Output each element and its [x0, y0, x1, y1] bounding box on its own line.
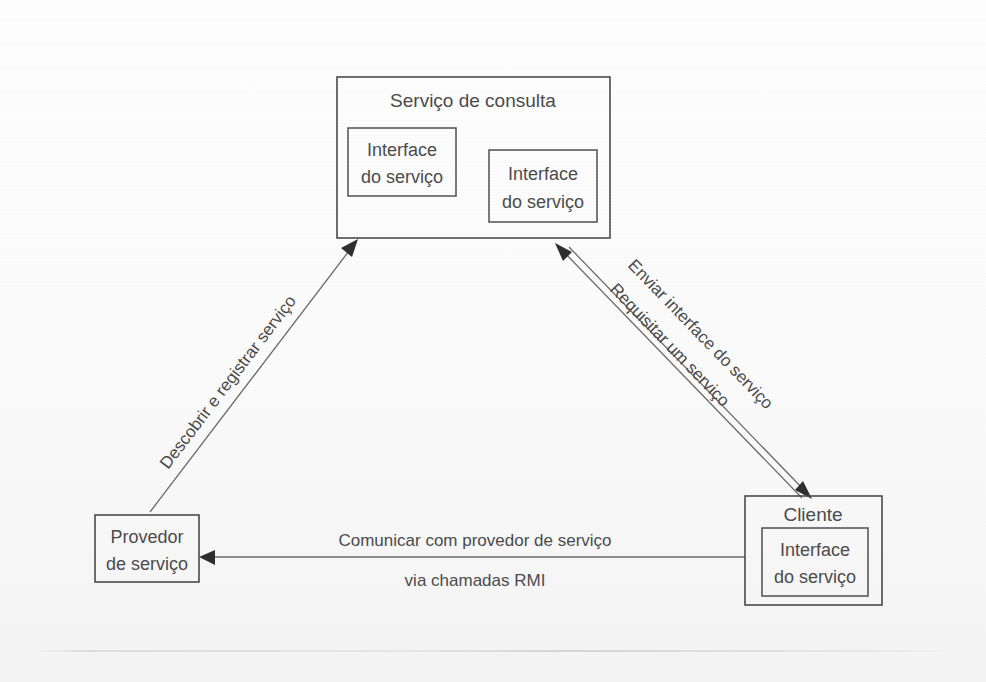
service-architecture-diagram: Descobrir e registrar serviço Enviar int… [0, 0, 986, 682]
registry-interface-2-line1: Interface [508, 164, 578, 184]
registry-interface-1-line1: Interface [367, 140, 437, 160]
edge-discover-register: Descobrir e registrar serviço [150, 239, 358, 512]
client-interface-line1: Interface [780, 540, 850, 560]
node-client[interactable]: Cliente Interface do serviço [745, 496, 882, 605]
client-title: Cliente [783, 504, 842, 525]
registry-interface-2-line2: do serviço [502, 192, 584, 212]
registry-interface-1[interactable]: Interface do serviço [348, 128, 456, 196]
discover-register-line [150, 247, 352, 512]
provider-label-line1: Provedor [110, 527, 183, 547]
registry-interface-1-line2: do serviço [361, 167, 443, 187]
registry-interface-2[interactable]: Interface do serviço [489, 150, 597, 222]
client-interface-line2: do serviço [774, 567, 856, 587]
node-registry[interactable]: Serviço de consulta Interface do serviço… [337, 77, 610, 238]
request-service-line [562, 250, 802, 498]
communicate-arrowhead [199, 550, 215, 565]
edge-communicate: Comunicar com provedor de serviço via ch… [199, 531, 745, 590]
edge-label-discover-register: Descobrir e registrar serviço [156, 292, 300, 473]
edge-request-service: Requisitar um serviço [555, 243, 802, 498]
client-interface[interactable]: Interface do serviço [762, 528, 868, 596]
node-provider[interactable]: Provedor de serviço [95, 515, 199, 582]
diagram-page: Descobrir e registrar serviço Enviar int… [0, 0, 986, 682]
provider-label-line2: de serviço [106, 554, 188, 574]
registry-title: Serviço de consulta [390, 90, 556, 111]
discover-register-arrowhead [341, 239, 358, 257]
edge-label-communicate-line2: via chamadas RMI [405, 571, 546, 590]
edge-label-communicate-line1: Comunicar com provedor de serviço [338, 531, 611, 550]
